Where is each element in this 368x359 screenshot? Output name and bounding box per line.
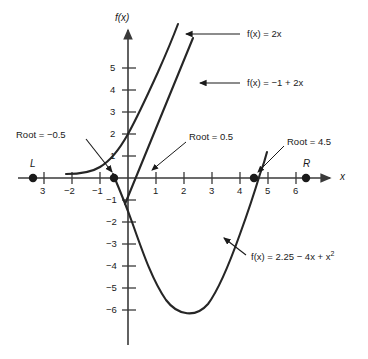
bracket-right-label: R: [303, 159, 310, 169]
curve-exponential: [66, 24, 178, 174]
x-tick-label-neg1: −1: [92, 186, 103, 196]
y-tick-label-1: 1: [110, 151, 115, 161]
root-four-half-dot: [250, 174, 258, 182]
root-half-leader: [152, 142, 186, 170]
equation-label-parabola-text: f(x) = 2.25 − 4x + x: [251, 251, 330, 262]
y-tick-label-neg2: −2: [106, 217, 117, 227]
equation-label-exponential: f(x) = 2x: [247, 29, 282, 39]
x-tick-label-5: 5: [265, 186, 270, 196]
y-tick-label-neg1: −1: [106, 195, 117, 205]
x-tick-label-neg3: 3: [40, 186, 45, 196]
bracket-left-label: L: [30, 159, 36, 169]
x-tick-label-1: 1: [153, 186, 158, 196]
equation-label-line: f(x) = −1 + 2x: [247, 78, 303, 88]
y-tick-label-neg6: −6: [106, 305, 117, 315]
x-tick-label-3: 3: [209, 186, 214, 196]
y-axis-ticks: [122, 68, 136, 310]
parabola-label-leader: [224, 238, 246, 255]
equation-label-parabola: f(x) = 2.25 − 4x + x2: [251, 250, 334, 262]
x-tick-label-neg2: −2: [64, 186, 75, 196]
y-tick-label-5: 5: [110, 63, 115, 73]
y-tick-label-neg4: −4: [106, 261, 117, 271]
bracket-left-dot: [29, 174, 37, 182]
root-half-label: Root = 0.5: [189, 132, 233, 142]
y-tick-label-4: 4: [110, 85, 115, 95]
x-tick-label-6: 6: [293, 186, 298, 196]
plot-canvas: [0, 0, 368, 359]
root-neg-half-label: Root = −0.5: [16, 130, 66, 140]
y-axis-title: f(x): [115, 13, 129, 23]
root-four-half-leader: [258, 146, 284, 172]
y-tick-label-neg3: −3: [106, 239, 117, 249]
equation-label-parabola-exponent: 2: [330, 250, 334, 257]
x-tick-label-2: 2: [181, 186, 186, 196]
math-figure: f(x) x 3 −2 −1 1 2 3 4 5 6 5 4 3 2 1 −1 …: [0, 0, 368, 359]
root-neg-half-dot: [110, 174, 118, 182]
root-four-half-label: Root = 4.5: [287, 137, 331, 147]
x-tick-label-4: 4: [237, 186, 242, 196]
y-tick-label-3: 3: [110, 107, 115, 117]
y-tick-label-neg5: −5: [106, 283, 117, 293]
x-axis-title: x: [340, 172, 345, 182]
bracket-right-dot: [302, 174, 310, 182]
y-tick-label-2: 2: [110, 129, 115, 139]
